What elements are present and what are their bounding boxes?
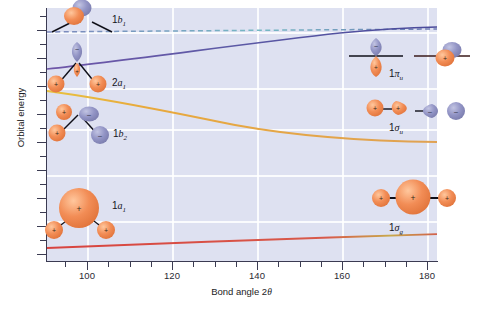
- x-axis-tick: [257, 261, 258, 270]
- y-axis-tick: [40, 156, 46, 157]
- x-axis-tick: [406, 261, 407, 267]
- gridline-horizontal: [47, 175, 437, 177]
- x-axis-tick: [151, 261, 152, 267]
- y-axis-tick: [40, 212, 46, 213]
- y-axis-tick: [37, 170, 46, 171]
- y-axis-tick: [37, 142, 46, 143]
- walsh-diagram-figure: 100 120 140 160 180 Bond angle 2θ Orbita…: [0, 0, 483, 310]
- orbital-label-1b2: 1b2: [113, 128, 127, 142]
- gridline-horizontal: [47, 32, 437, 34]
- x-axis-tick: [87, 261, 88, 270]
- y-axis-tick: [37, 30, 46, 31]
- x-axis-tick: [342, 261, 343, 270]
- plot-area: [47, 8, 437, 261]
- gridline-vertical: [172, 8, 174, 261]
- y-axis-tick: [37, 58, 46, 59]
- y-axis-tick: [37, 226, 46, 227]
- gridline-horizontal: [47, 88, 437, 90]
- x-axis-tick: [321, 261, 322, 267]
- orbital-label-1sigmag: 1σg: [389, 222, 403, 236]
- gridline-vertical: [87, 8, 89, 261]
- x-tick-label-180: 180: [407, 270, 447, 281]
- y-axis-tick: [40, 184, 46, 185]
- x-axis-tick: [108, 261, 109, 267]
- y-axis-tick: [40, 16, 46, 17]
- x-axis-tick: [385, 261, 386, 267]
- x-axis-tick: [300, 261, 301, 267]
- svg-text:+: +: [445, 195, 449, 202]
- y-axis-tick: [40, 100, 46, 101]
- x-tick-label-100: 100: [67, 270, 107, 281]
- gridline-vertical: [257, 8, 259, 261]
- theta-symbol: θ: [267, 287, 272, 297]
- x-tick-label-160: 160: [322, 270, 362, 281]
- x-axis-tick: [363, 261, 364, 267]
- orbital-label-1piu: 1πu: [389, 68, 403, 82]
- x-axis-tick: [215, 261, 216, 267]
- y-axis-title: Orbital energy: [15, 53, 26, 183]
- x-axis-tick: [65, 261, 66, 267]
- gridline-vertical: [427, 8, 429, 261]
- x-axis-tick: [278, 261, 279, 267]
- x-axis-tick: [172, 261, 173, 270]
- y-axis-tick: [40, 240, 46, 241]
- y-axis-tick: [37, 198, 46, 199]
- gridline-horizontal: [47, 129, 437, 131]
- gridline-vertical: [342, 8, 344, 261]
- y-axis-tick: [40, 128, 46, 129]
- x-axis-tick: [427, 261, 428, 270]
- x-tick-label-120: 120: [152, 270, 192, 281]
- orbital-label-1a1: 1a1: [112, 200, 126, 214]
- x-axis-title-text: Bond angle 2: [211, 286, 267, 297]
- y-axis-tick: [37, 114, 46, 115]
- orbital-label-1sigmau: 1σu: [389, 122, 403, 136]
- y-axis-tick: [37, 254, 46, 255]
- x-axis-tick: [193, 261, 194, 267]
- orbital-label-1b1: 1b1: [112, 14, 126, 28]
- gridline-horizontal: [47, 221, 437, 223]
- svg-text:–: –: [454, 108, 458, 115]
- x-tick-label-140: 140: [237, 270, 277, 281]
- y-axis-tick: [40, 72, 46, 73]
- orbital-label-2a1: 2a1: [112, 77, 126, 91]
- y-axis-line: [46, 8, 47, 261]
- y-axis-tick: [37, 86, 46, 87]
- y-axis-tick: [40, 44, 46, 45]
- svg-text:+: +: [443, 55, 447, 62]
- x-axis-line: [46, 261, 438, 262]
- x-axis-tick: [236, 261, 237, 267]
- x-axis-title: Bond angle 2θ: [0, 286, 483, 297]
- x-axis-tick: [130, 261, 131, 267]
